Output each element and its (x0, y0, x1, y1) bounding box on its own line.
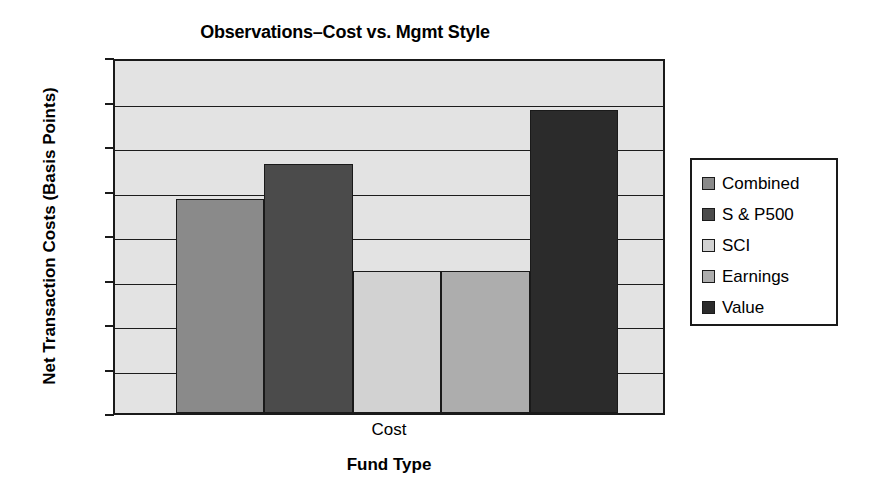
legend-item: Earnings (702, 261, 836, 292)
legend-swatch-icon (702, 270, 715, 283)
x-axis-title: Fund Type (113, 455, 665, 475)
x-axis-category-label: Cost (113, 420, 665, 440)
bar-s-p500 (264, 164, 352, 413)
legend-swatch-icon (702, 208, 715, 221)
bar-value (530, 110, 618, 413)
legend-label: Value (722, 299, 764, 316)
legend-item: SCI (702, 230, 836, 261)
legend-label: Earnings (722, 268, 789, 285)
gridline (115, 106, 663, 107)
legend-item: S & P500 (702, 199, 836, 230)
bar-sci (353, 271, 441, 413)
y-axis-title: Net Transaction Costs (Basis Points) (40, 46, 60, 426)
legend-swatch-icon (702, 301, 715, 314)
legend-item: Combined (702, 168, 836, 199)
legend: CombinedS & P500SCIEarningsValue (690, 158, 838, 326)
legend-swatch-icon (702, 177, 715, 190)
chart-title: Observations–Cost vs. Mgmt Style (0, 22, 690, 43)
legend-label: Combined (722, 175, 800, 192)
legend-item: Value (702, 292, 836, 323)
legend-label: SCI (722, 237, 750, 254)
bar-combined (176, 199, 264, 413)
legend-label: S & P500 (722, 206, 794, 223)
legend-swatch-icon (702, 239, 715, 252)
bar-chart: Observations–Cost vs. Mgmt Style Net Tra… (0, 0, 874, 491)
plot-area (113, 59, 665, 415)
bar-earnings (441, 271, 529, 413)
